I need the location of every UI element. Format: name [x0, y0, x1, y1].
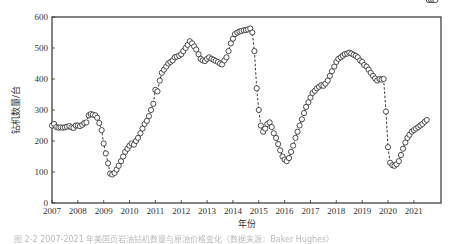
x-tick-label: 2017 [301, 206, 320, 216]
data-point [398, 152, 403, 157]
x-tick-label: 2008 [69, 206, 88, 216]
data-point [424, 117, 429, 122]
data-point [301, 111, 306, 116]
x-tick-label: 2009 [95, 206, 114, 216]
x-tick-label: 2021 [405, 206, 423, 216]
data-point [385, 145, 390, 150]
x-tick-label: 2012 [172, 206, 190, 216]
y-tick-label: 400 [35, 74, 49, 84]
data-point [95, 115, 100, 120]
data-point [97, 120, 102, 125]
x-tick-label: 2013 [198, 206, 217, 216]
data-point [256, 107, 261, 112]
x-axis: 2007200820092010201120122013201420152016… [43, 200, 423, 216]
data-point [433, 0, 438, 3]
data-point [101, 141, 106, 146]
x-tick-label: 2010 [121, 206, 140, 216]
x-tick-label: 2007 [43, 206, 62, 216]
y-tick-label: 300 [35, 105, 49, 115]
data-point [295, 129, 300, 134]
data-point [381, 76, 386, 81]
data-point [151, 101, 156, 106]
data-point [278, 148, 283, 153]
x-tick-label: 2014 [224, 206, 243, 216]
data-point [84, 120, 89, 125]
data-point [291, 143, 296, 148]
figure-caption: 图 2-2 2007-2021 年美国页岩油钻机数量与原油价格变化（数据来源：B… [14, 233, 334, 244]
data-point [103, 151, 108, 156]
data-point [396, 159, 401, 164]
data-point [383, 109, 388, 114]
data-point [273, 135, 278, 140]
data-point [224, 55, 229, 60]
data-point [288, 149, 293, 154]
x-tick-label: 2011 [147, 206, 165, 216]
x-tick-label: 2018 [327, 206, 346, 216]
x-tick-label: 2015 [250, 206, 269, 216]
x-tick-label: 2016 [276, 206, 295, 216]
data-point [299, 117, 304, 122]
x-tick-label: 2020 [379, 206, 398, 216]
y-tick-label: 600 [35, 12, 49, 22]
data-point [252, 49, 257, 54]
x-axis-title: 年份 [238, 218, 256, 229]
data-point [157, 78, 162, 83]
data-point [146, 114, 151, 119]
y-axis-title: 钻机数量/台 [10, 86, 21, 134]
data-point [226, 49, 231, 54]
y-tick-label: 200 [35, 136, 49, 146]
data-point [250, 30, 255, 35]
series-points [49, 0, 438, 177]
data-point [254, 86, 259, 91]
y-tick-label: 500 [35, 43, 49, 53]
y-tick-label: 100 [35, 167, 49, 177]
data-point [155, 89, 160, 94]
data-point [293, 135, 298, 140]
data-point [276, 142, 281, 147]
data-point [105, 161, 110, 166]
data-point [286, 155, 291, 160]
data-point [297, 123, 302, 128]
x-tick-label: 2019 [353, 206, 372, 216]
data-point [269, 124, 274, 129]
data-point [400, 146, 405, 151]
data-point [148, 107, 153, 112]
data-point [99, 128, 104, 133]
